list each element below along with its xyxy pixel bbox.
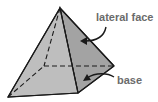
pyramid-diagram: lateral face base bbox=[0, 0, 158, 102]
lateral-face-label: lateral face bbox=[96, 11, 153, 23]
base-label: base bbox=[117, 74, 142, 86]
